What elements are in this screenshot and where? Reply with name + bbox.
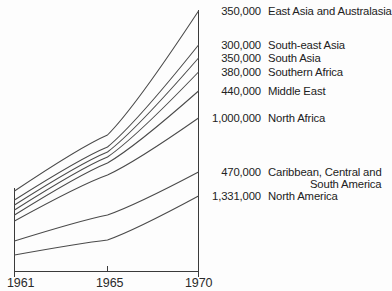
- series-line-middle-east: [15, 91, 199, 215]
- legend-label: North Africa: [268, 112, 325, 124]
- legend-label: South Asia: [268, 52, 321, 64]
- legend-row-east-asia: 350,000 East Asia and Australasia: [205, 5, 392, 17]
- legend-value: 1,000,000: [197, 112, 261, 124]
- x-axis-label-1970: 1970: [185, 276, 212, 290]
- series-line-north-america: [15, 196, 199, 255]
- series-line-southern-africa: [15, 72, 199, 210]
- legend-value: 350,000: [205, 5, 261, 17]
- legend-label-line2: South America: [268, 178, 382, 190]
- legend-label: North America: [268, 190, 338, 202]
- axes: [15, 10, 199, 277]
- legend-row-north-america: 1,331,000 North America: [197, 190, 338, 202]
- legend-label: Middle East: [268, 85, 325, 97]
- legend-value: 300,000: [205, 39, 261, 51]
- legend-row-north-africa: 1,000,000 North Africa: [197, 112, 325, 124]
- series-line-north-africa: [15, 118, 199, 221]
- series-line-east-asia-and-australasia: [15, 11, 199, 191]
- x-axis-label-1965: 1965: [96, 276, 123, 290]
- legend-row-caribbean-central-south-america: 470,000 Caribbean, Central andSouth Amer…: [205, 166, 382, 190]
- legend-row-south-asia: 350,000 South Asia: [205, 52, 321, 64]
- series-lines: [15, 11, 199, 255]
- legend-label: Caribbean, Central andSouth America: [268, 166, 382, 190]
- legend-row-southern-africa: 380,000 Southern Africa: [205, 66, 343, 78]
- x-axis-label-1961: 1961: [7, 276, 34, 290]
- legend-row-south-east-asia: 300,000 South-east Asia: [205, 39, 345, 51]
- legend-row-middle-east: 440,000 Middle East: [205, 85, 325, 97]
- legend-label: Southern Africa: [268, 66, 343, 78]
- legend-value: 380,000: [205, 66, 261, 78]
- legend-label-line1: Caribbean, Central and: [268, 166, 382, 178]
- legend-value: 440,000: [205, 85, 261, 97]
- legend-label: South-east Asia: [268, 39, 345, 51]
- legend-value: 350,000: [205, 52, 261, 64]
- legend-value: 1,331,000: [197, 190, 261, 202]
- legend-value: 470,000: [205, 166, 261, 178]
- series-line-south-east-asia: [15, 45, 199, 200]
- legend-label: East Asia and Australasia: [268, 5, 392, 17]
